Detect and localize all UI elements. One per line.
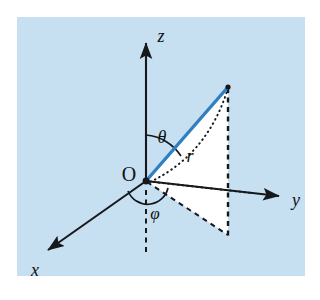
vector-tip-point [225,84,230,89]
theta-angle-label: θ [158,127,167,147]
origin-point [143,178,150,185]
figure-root: O z y x θ φ r [0,0,320,300]
spherical-coordinates-diagram: O z y x θ φ r [0,0,320,300]
y-axis-label: y [290,190,300,210]
z-axis-label: z [156,26,164,46]
phi-angle-label: φ [150,204,159,223]
x-axis-label: x [30,260,39,280]
radius-label: r [186,146,194,166]
origin-label: O [122,163,136,185]
